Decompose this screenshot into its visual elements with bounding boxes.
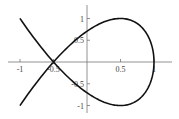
y-tick-label: -1 (77, 102, 84, 111)
x-tick-label: -1 (17, 65, 24, 74)
curve-plot: -1-0.50.5110.5-0.5-1 (0, 0, 179, 119)
y-tick-label: 1 (80, 15, 84, 24)
axis-ticks: -1-0.50.5110.5-0.5-1 (17, 15, 156, 111)
x-tick-label: 0.5 (116, 65, 126, 74)
